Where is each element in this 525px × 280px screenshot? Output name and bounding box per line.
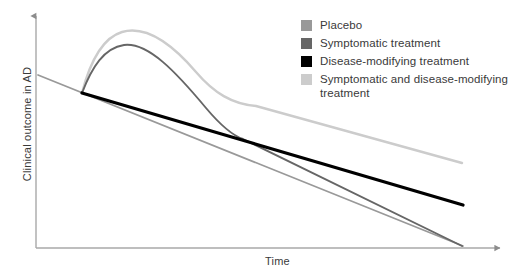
legend-label: Symptomatic treatment [320, 36, 440, 50]
legend-swatch-icon [301, 38, 312, 49]
legend-item-placebo: Placebo [301, 18, 521, 32]
legend-swatch-icon [301, 20, 312, 31]
legend-item-symptomatic-and-disease-modifying-treatment: Symptomatic and disease-modifying treatm… [301, 72, 521, 100]
chart-figure: Clinical outcome in AD Time Placebo Symp… [0, 0, 525, 280]
chart-legend: Placebo Symptomatic treatment Disease-mo… [301, 18, 521, 104]
legend-swatch-icon [301, 74, 312, 85]
legend-label: Symptomatic and disease-modifying treatm… [320, 72, 521, 100]
legend-swatch-icon [301, 56, 312, 67]
x-axis-label: Time [0, 255, 525, 267]
legend-label: Disease-modifying treatment [320, 54, 469, 68]
legend-item-disease-modifying-treatment: Disease-modifying treatment [301, 54, 521, 68]
legend-item-symptomatic-treatment: Symptomatic treatment [301, 36, 521, 50]
legend-label: Placebo [320, 18, 362, 32]
y-axis-label: Clinical outcome in AD [21, 44, 33, 204]
